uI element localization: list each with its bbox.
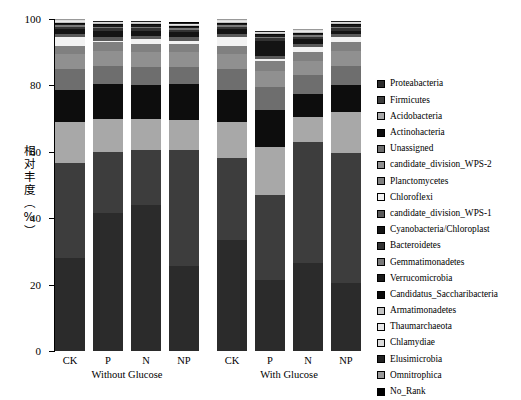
bar-segment [93, 84, 123, 119]
bar-segment [131, 67, 161, 85]
bar-segment [255, 280, 285, 351]
legend-item-label: Thaumarchaeota [390, 322, 452, 331]
bar-segment [255, 41, 285, 56]
y-axis-tick-label: 0 [36, 345, 42, 357]
bar-segment [331, 283, 361, 351]
stacked-bar [93, 19, 123, 351]
legend-item-label: Unassigned [390, 144, 433, 153]
bar-segment [55, 69, 85, 91]
bar-segment [293, 117, 323, 142]
legend-item[interactable]: Cyanobacteria/Chloroplast [377, 222, 521, 238]
legend-item[interactable]: Omnitrophica [377, 367, 521, 383]
x-axis-tick-label: N [304, 355, 312, 366]
legend-item-label: Chlamydiae [390, 338, 435, 347]
bar-segment [217, 122, 247, 159]
legend-swatch-icon [377, 193, 385, 201]
legend-item[interactable]: Proteabacteria [377, 76, 521, 92]
bar-segment [131, 119, 161, 151]
bar-segment [131, 150, 161, 205]
legend-item[interactable]: Bacteroidetes [377, 238, 521, 254]
legend-item-label: Verrucomicrobia [390, 274, 452, 283]
legend-item[interactable]: Gemmatimonadetes [377, 254, 521, 270]
legend-swatch-icon [377, 339, 385, 347]
legend-item-label: Candidatus_Saccharibacteria [390, 290, 498, 299]
y-axis-label: 相对丰度（%） [18, 0, 40, 383]
legend-item[interactable]: candidate_division_WPS-1 [377, 206, 521, 222]
bar-segment [93, 119, 123, 152]
legend-swatch-icon [377, 161, 385, 169]
legend-item[interactable]: Acidobacteria [377, 108, 521, 124]
legend-item[interactable]: Unassigned [377, 141, 521, 157]
bar-segment [255, 61, 285, 71]
legend-swatch-icon [377, 323, 385, 331]
bar-segment [293, 263, 323, 351]
legend-swatch-icon [377, 226, 385, 234]
legend-item-label: Cyanobacteria/Chloroplast [390, 225, 490, 234]
legend-swatch-icon [377, 210, 385, 218]
legend-item[interactable]: Actinohacteria [377, 125, 521, 141]
legend-item[interactable]: candidate_division_WPS-2 [377, 157, 521, 173]
legend-item-label: Chloroflexi [390, 193, 433, 202]
x-axis-tick-label: NP [339, 355, 352, 366]
legend-item-label: Omnitrophica [390, 371, 442, 380]
bar-segment [293, 94, 323, 117]
legend-item[interactable]: Thaumarchaeota [377, 319, 521, 335]
legend-item-label: Actinohacteria [390, 128, 445, 137]
bar-segment [169, 44, 199, 52]
x-axis-tick-label: P [267, 355, 273, 366]
legend-swatch-icon [377, 177, 385, 185]
legend-swatch-icon [377, 242, 385, 250]
legend-swatch-icon [377, 274, 385, 282]
legend-item-label: Planctomycetes [390, 177, 448, 186]
bar-segment [217, 240, 247, 351]
legend-item[interactable]: No_Rank [377, 384, 521, 400]
bar-segment [255, 147, 285, 195]
y-axis-tick-label: 20 [30, 279, 41, 291]
bar-segment [255, 71, 285, 88]
legend-item-label: Acidobacteria [390, 112, 442, 121]
bar-segment [131, 85, 161, 118]
bar-segment [169, 120, 199, 150]
legend-item[interactable]: Chloroflexi [377, 189, 521, 205]
legend-swatch-icon [377, 291, 385, 299]
bar-segment [131, 205, 161, 351]
legend-item-label: candidate_division_WPS-2 [390, 160, 492, 169]
legend: ProteabacteriaFirmicutesAcidobacteriaAct… [377, 76, 521, 400]
plot-area: 020406080100 [55, 19, 372, 351]
bar-segment [93, 31, 123, 38]
x-axis-tick-label: CK [225, 355, 240, 366]
stacked-bar [131, 19, 161, 351]
legend-item-label: Firmicutes [390, 96, 430, 105]
stacked-bar [217, 19, 247, 351]
bar-segment [169, 84, 199, 121]
legend-swatch-icon [377, 96, 385, 104]
legend-swatch-icon [377, 388, 385, 396]
bar-segment [93, 42, 123, 50]
x-axis-tick-label: NP [177, 355, 190, 366]
legend-item[interactable]: Planctomycetes [377, 173, 521, 189]
legend-item[interactable]: Firmicutes [377, 92, 521, 108]
bar-segment [55, 46, 85, 54]
legend-item[interactable]: Armatimonadetes [377, 303, 521, 319]
bar-segment [93, 213, 123, 351]
bar-segment [255, 195, 285, 280]
bar-segment [293, 75, 323, 93]
legend-item-label: Bacteroidetes [390, 241, 441, 250]
legend-item[interactable]: Chlamydiae [377, 335, 521, 351]
bar-segment [169, 150, 199, 266]
stacked-bar [55, 19, 85, 351]
bar-segment [255, 87, 285, 110]
bar-segment [169, 266, 199, 351]
y-axis-tick: 0 [49, 351, 55, 352]
bar-segment [55, 163, 85, 258]
bar-segment [331, 85, 361, 112]
bar-segment [217, 69, 247, 91]
stacked-bar [293, 19, 323, 351]
legend-item-label: Armatimonadetes [390, 306, 456, 315]
legend-item[interactable]: Verrucomicrobia [377, 270, 521, 286]
legend-item-label: Elusimicrobia [390, 355, 442, 364]
legend-item[interactable]: Candidatus_Saccharibacteria [377, 286, 521, 302]
bar-segment [331, 153, 361, 282]
legend-item[interactable]: Elusimicrobia [377, 351, 521, 367]
